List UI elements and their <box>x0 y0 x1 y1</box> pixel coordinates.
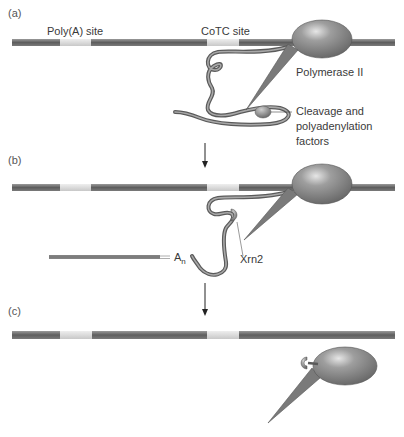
polya-tail-label: An <box>174 251 186 266</box>
arrow-down-icon <box>202 283 208 316</box>
cleavage-label-3: factors <box>296 135 330 147</box>
panel-a-label: (a) <box>8 7 21 19</box>
arrow-down-icon <box>202 143 208 168</box>
cleavage-label-1: Cleavage and <box>296 105 364 117</box>
polya-site-label: Poly(A) site <box>47 25 103 37</box>
polymerase-ii-a <box>246 20 352 110</box>
termination-diagram: (a) Poly(A) site CoTC site Polymerase II… <box>0 0 404 437</box>
rna-transcript-a <box>175 47 289 125</box>
cleavage-factor <box>255 106 271 118</box>
dna-strand-c <box>12 331 395 339</box>
cotc-site <box>207 39 239 46</box>
cotc-site-label: CoTC site <box>201 25 250 37</box>
xrn2-label: Xrn2 <box>240 253 263 265</box>
polya-site <box>60 39 91 46</box>
released-mrna <box>49 256 170 259</box>
polymerase-ii-c <box>268 347 377 423</box>
panel-c-label: (c) <box>8 305 21 317</box>
panel-b-label: (b) <box>8 154 21 166</box>
cleavage-label-2: polyadenylation <box>296 120 372 132</box>
polymerase-label: Polymerase II <box>296 66 363 78</box>
polymerase-ii-b <box>244 164 352 240</box>
